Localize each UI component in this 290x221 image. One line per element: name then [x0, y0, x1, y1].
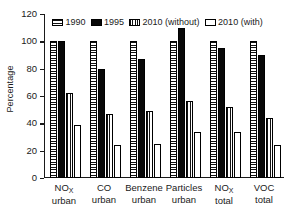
y-axis-tick-label: 60 — [26, 91, 37, 101]
bar-group — [90, 14, 121, 178]
bar — [130, 41, 137, 178]
bar — [90, 41, 97, 178]
bar — [266, 118, 273, 178]
y-axis-tick-label: 20 — [26, 146, 37, 156]
bar — [146, 111, 153, 178]
legend-swatch-icon — [205, 19, 216, 26]
x-axis-labels: NOXurbanCOurbanBenzeneurbanParticlesurba… — [44, 182, 284, 218]
y-axis-tick-label: 0 — [32, 173, 37, 183]
y-axis-tick-label: 80 — [26, 64, 37, 74]
bar — [98, 69, 105, 178]
bar — [274, 145, 281, 178]
bar — [50, 41, 57, 178]
bar — [186, 101, 193, 178]
y-axis-tick-label: 120 — [21, 9, 37, 19]
bar — [226, 107, 233, 178]
legend-swatch-icon — [91, 19, 102, 26]
legend-entry: 2010 (with) — [205, 18, 263, 27]
bar — [58, 41, 65, 178]
legend-label: 2010 (with) — [218, 18, 263, 27]
legend-entry: 1990 — [52, 18, 86, 27]
bar-group — [250, 14, 281, 178]
bar — [138, 59, 145, 178]
y-axis-tick-label: 40 — [26, 119, 37, 129]
bar — [194, 132, 201, 178]
bar — [258, 55, 265, 178]
bar-group — [210, 14, 241, 178]
legend-label: 1990 — [66, 18, 86, 27]
bar — [234, 132, 241, 178]
x-axis-label: VOCtotal — [238, 182, 290, 206]
bar — [114, 145, 121, 178]
bar — [74, 125, 81, 178]
legend-label: 1995 — [104, 18, 124, 27]
legend-swatch-icon — [52, 19, 63, 26]
bar — [170, 41, 177, 178]
bar-chart: Percentage 020406080100120 NOXurbanCOurb… — [0, 0, 290, 221]
legend-entry: 1995 — [91, 18, 125, 27]
bar-group — [170, 14, 201, 178]
bar — [178, 28, 185, 178]
y-axis-title: Percentage — [2, 0, 18, 178]
bar-group — [130, 14, 161, 178]
bar — [210, 41, 217, 178]
y-axis-tick: 0 — [40, 178, 44, 179]
legend-swatch-icon — [129, 19, 140, 26]
y-axis-title-label: Percentage — [5, 65, 15, 112]
bars-layer — [44, 14, 284, 178]
bar — [106, 114, 113, 178]
bar — [66, 93, 73, 178]
legend-label: 2010 (without) — [143, 18, 200, 27]
bar-group — [50, 14, 81, 178]
plot-area: 020406080100120 — [44, 14, 284, 178]
bar — [154, 144, 161, 178]
y-axis-tick-label: 100 — [21, 37, 37, 47]
chart-legend: 199019952010 (without)2010 (with) — [52, 18, 263, 27]
bar — [218, 48, 225, 178]
bar — [250, 41, 257, 178]
legend-entry: 2010 (without) — [129, 18, 200, 27]
